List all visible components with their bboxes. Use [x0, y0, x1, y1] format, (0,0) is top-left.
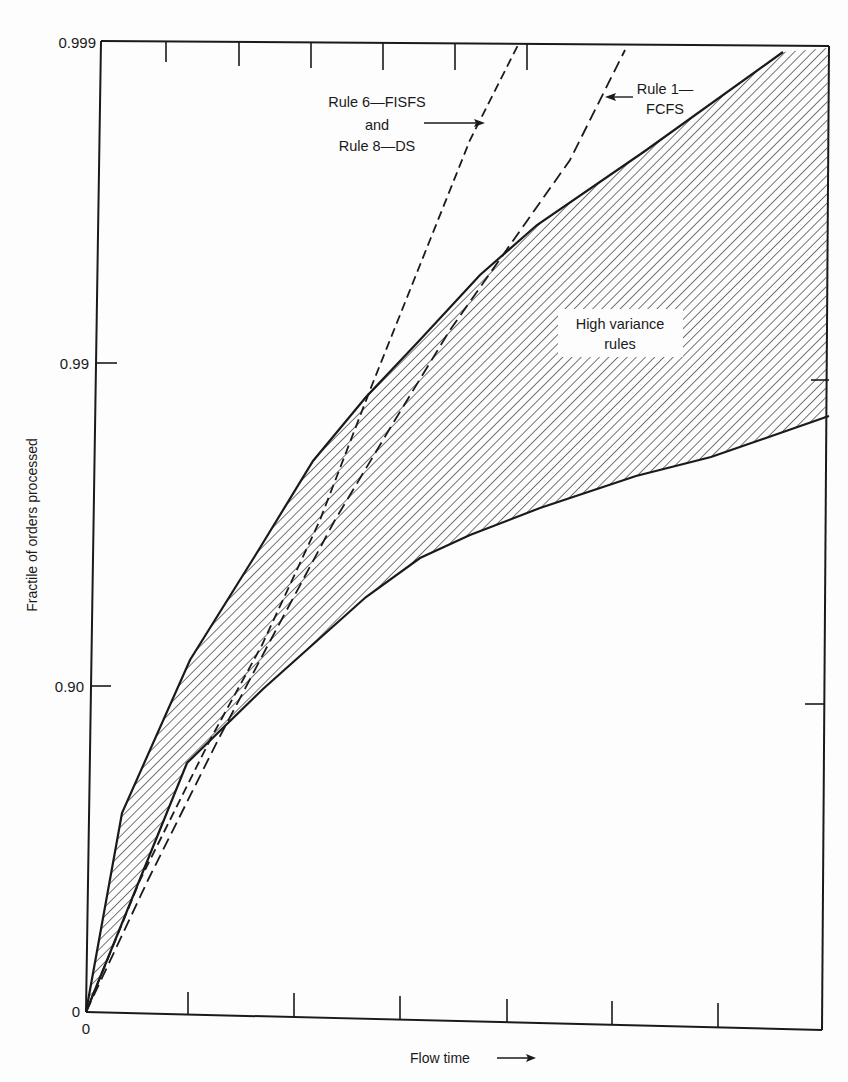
annotation-high-variance-line2: rules [604, 336, 635, 352]
annotation-rule6-rule8: Rule 6—FISFS and Rule 8—DS [328, 94, 485, 154]
annotation-rule6-line3: Rule 8—DS [339, 138, 416, 154]
y-tick-label-0999: 0.999 [58, 34, 96, 51]
right-arrow-icon [497, 1054, 536, 1062]
flow-time-chart: 0.999 0.99 0.90 0 0 Fractile of orders p… [0, 0, 848, 1082]
y-axis-title: Fractile of orders processed [24, 438, 40, 612]
arrow-right-icon [424, 119, 485, 127]
y-tick-label-0: 0 [72, 1003, 80, 1020]
annotation-rule1-fcfs: Rule 1— FCFS [605, 81, 694, 117]
arrow-left-icon [605, 93, 633, 101]
chart-svg: 0.999 0.99 0.90 0 0 Fractile of orders p… [0, 0, 848, 1082]
x-axis-title-group: Flow time [410, 1050, 536, 1066]
x-axis-title: Flow time [410, 1050, 470, 1066]
annotation-rule1-line2: FCFS [646, 101, 684, 117]
high-variance-region [86, 48, 829, 1012]
annotation-high-variance-line1: High variance [576, 316, 665, 332]
y-tick-label-090: 0.90 [55, 678, 84, 695]
x-origin-label: 0 [82, 1020, 90, 1037]
y-tick-label-099: 0.99 [60, 355, 89, 372]
x-axis-ticks-top [166, 42, 527, 70]
annotation-rule6-line1: Rule 6—FISFS [328, 94, 426, 110]
annotation-high-variance: High variance rules [558, 309, 683, 357]
annotation-rule6-line2: and [365, 117, 389, 133]
annotation-rule1-line1: Rule 1— [637, 81, 694, 97]
